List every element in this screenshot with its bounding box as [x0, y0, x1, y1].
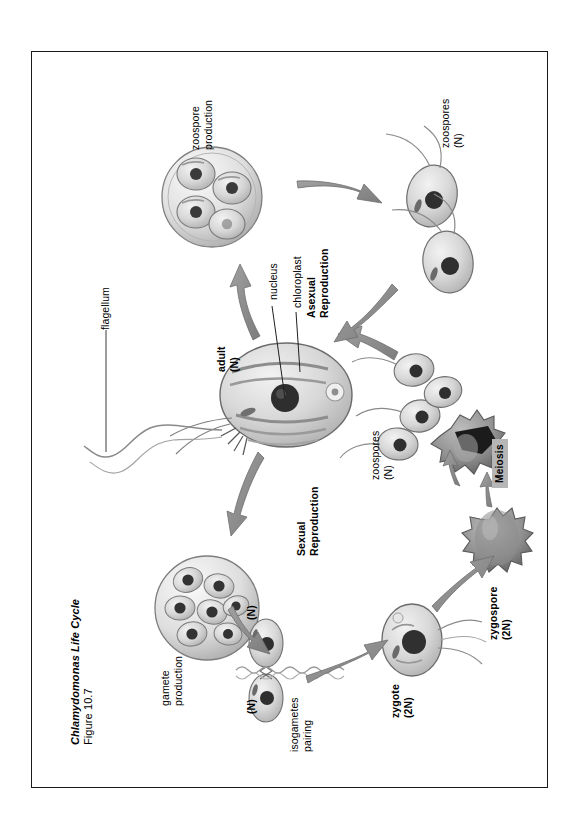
- label-nucleus: nucleus: [268, 263, 280, 300]
- label-zygote-line1: zygote: [390, 684, 402, 718]
- arrow-adult-to-gamete-production: [227, 452, 264, 536]
- label-zoospores-sexual-line2: (N): [383, 465, 395, 480]
- label-zoospore-production-line1: zoospore: [190, 106, 202, 150]
- slide-figure-number: Figure 10.7: [83, 688, 95, 745]
- label-zoospores-asexual-line1: zoospores: [440, 99, 452, 148]
- zygote-art: [382, 604, 486, 676]
- arrow-asexual-zoospores-to-adult: [334, 284, 398, 342]
- label-meiosis-badge: Meiosis: [492, 439, 508, 488]
- label-isogametes-pairing-line1: isogametes: [289, 697, 301, 752]
- label-zoospores-asexual-line2: (N): [453, 133, 465, 148]
- zoospore-production-cell-art: [162, 147, 262, 247]
- label-sexual-reproduction-line1: Sexual: [296, 522, 308, 556]
- label-zoospores-sexual-line1: zoospores: [370, 431, 382, 480]
- label-isogametes-pairing-line2: pairing: [302, 720, 314, 752]
- label-sexual-reproduction-line2: Reproduction: [309, 487, 321, 556]
- label-gamete-production-line1: gamete: [160, 670, 172, 706]
- label-asexual-reproduction-line1: Asexual: [306, 277, 318, 318]
- label-zygospore-line2: (2N): [501, 619, 513, 640]
- slide-page: Chlamydomonas Life Cycle Figure 10.7 fla…: [0, 0, 582, 829]
- arrow-to-zygote: [306, 640, 388, 683]
- label-zoospore-production-line2: production: [203, 100, 215, 150]
- label-isogamete-top-ploidy: (N): [246, 605, 258, 620]
- arrow-adult-to-zoospore-production: [230, 264, 260, 340]
- arrow-to-zygospore: [432, 556, 494, 612]
- zoospores-asexual-art: [386, 126, 477, 296]
- arrow-to-zoospores-asexual: [297, 181, 382, 203]
- label-zygospore-line1: zygospore: [488, 587, 500, 640]
- label-chloroplast: chloroplast: [292, 256, 304, 308]
- label-isogamete-bottom-ploidy: (N): [246, 699, 258, 714]
- label-zygote-line2: (2N): [403, 697, 415, 718]
- label-gamete-production-line2: production: [173, 656, 185, 706]
- label-asexual-reproduction-line2: Reproduction: [319, 249, 331, 318]
- slide-title: Chlamydomonas Life Cycle: [70, 599, 82, 745]
- label-adult-name: adult: [216, 346, 228, 372]
- label-adult-ploidy: (N): [229, 357, 241, 372]
- label-flagellum: flagellum: [100, 287, 112, 330]
- gamete-production-cell-art: [155, 556, 259, 660]
